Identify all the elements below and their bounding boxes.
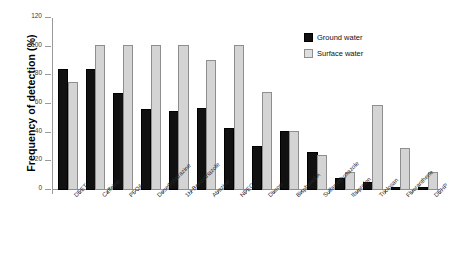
bar-group [280,18,298,190]
bar-group [86,18,104,190]
y-axis-line [52,18,53,190]
y-axis-tick-label: 80 [35,69,42,76]
legend-swatch-icon [304,33,313,42]
y-axis-tick-label: 60 [35,98,42,105]
bar-surface-water [289,131,299,190]
bar-surface-water [151,45,161,190]
bar-surface-water [372,105,382,190]
legend-label: Surface water [317,49,363,58]
bar-surface-water [262,92,272,190]
x-axis-category-label: Ibuprofen [350,194,354,198]
y-axis-tick-label: 100 [31,41,42,48]
y-axis-tick: 80 [45,74,51,75]
x-axis-category-label: Fluoranthene [405,194,409,198]
x-axis-category-label: Atrazine [211,194,215,198]
bar-group [391,18,409,190]
chart-legend: Ground waterSurface water [304,33,363,65]
y-axis-tick-label: 0 [38,184,42,191]
bar-group [113,18,131,190]
bar-group [363,18,381,190]
bar-surface-water [234,45,244,190]
y-axis-tick: 120 [45,17,51,18]
plot-area: 020406080100120 [52,18,440,190]
bar-group [197,18,215,190]
x-axis-category-label: Diuron [267,194,271,198]
bar-surface-water [400,148,410,190]
y-axis-tick: 0 [45,189,51,190]
y-axis-tick: 20 [45,160,51,161]
x-axis-category-label: Sulfamethoxazole [322,194,326,198]
chart-screenshot: Frequency of detection (%) 0204060801001… [0,0,450,253]
x-axis-category-label: DEET [73,194,77,198]
bar-group [252,18,270,190]
bar-surface-water [68,82,78,190]
x-axis-category-label: Caffeine [101,194,105,198]
x-axis-category-label: Desethylatrazine [156,194,160,198]
legend-item: Surface water [304,49,363,58]
legend-swatch-icon [304,49,313,58]
bar-surface-water [123,45,133,190]
legend-label: Ground water [317,33,362,42]
x-axis-category-label: PFOA [128,194,132,198]
y-axis-tick-label: 20 [35,155,42,162]
y-axis-tick: 100 [45,46,51,47]
y-axis-tick-label: 120 [31,12,42,19]
y-axis-tick: 60 [45,103,51,104]
legend-item: Ground water [304,33,363,42]
y-axis-tick-label: 40 [35,127,42,134]
x-axis-category-label: Triclosan [378,194,382,198]
bar-group [58,18,76,190]
x-axis-category-label: 1H-Benzotriazole [184,194,188,198]
x-axis-category-label: DEHP [433,194,437,198]
x-axis-category-label: NPEC [239,194,243,198]
bar-group [224,18,242,190]
x-axis-tick [52,190,53,194]
bar-surface-water [95,45,105,190]
y-axis-tick: 40 [45,132,51,133]
bar-group [141,18,159,190]
x-axis-category-label: Bisphenol A [295,194,299,198]
bar-group [418,18,436,190]
